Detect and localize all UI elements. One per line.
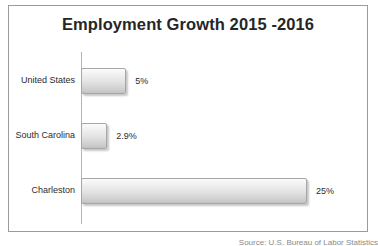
value-label-united-states: 5% <box>135 76 148 86</box>
chart-frame: Employment Growth 2015 -2016 United Stat… <box>8 5 368 232</box>
category-label-charleston: Charleston <box>9 186 79 196</box>
bar-and-value: 2.9% <box>79 123 367 149</box>
plot-area: United States 5% South Carolina 2.9% Cha… <box>9 50 367 231</box>
bar-and-value: 5% <box>79 68 367 94</box>
bar-south-carolina <box>81 123 107 149</box>
bar-united-states <box>81 68 126 94</box>
category-label-united-states: United States <box>9 76 79 86</box>
category-label-south-carolina: South Carolina <box>9 131 79 141</box>
value-label-south-carolina: 2.9% <box>116 131 137 141</box>
bar-charleston <box>81 178 307 204</box>
value-label-charleston: 25% <box>316 186 334 196</box>
chart-title: Employment Growth 2015 -2016 <box>9 15 367 34</box>
bar-and-value: 25% <box>79 178 367 204</box>
bar-row: United States 5% <box>9 54 367 108</box>
bar-row: Charleston 25% <box>9 164 367 218</box>
bar-row: South Carolina 2.9% <box>9 109 367 163</box>
source-note: Source: U.S. Bureau of Labor Statistics <box>200 238 378 246</box>
